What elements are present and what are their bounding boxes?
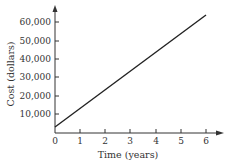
- y-tick-label: 50,000: [20, 36, 52, 46]
- x-tick-label: 1: [77, 136, 83, 146]
- y-tick-label: 60,000: [20, 17, 52, 27]
- origin-label: 0: [52, 136, 58, 146]
- x-tick-label: 6: [203, 136, 209, 146]
- x-tick-labels: 0 1 2 3 4 5 6: [52, 136, 209, 146]
- cost-line: [55, 15, 206, 127]
- x-ticks: [80, 129, 206, 133]
- y-tick-label: 10,000: [20, 109, 52, 119]
- y-axis-arrow: [53, 5, 58, 12]
- y-tick-label: 30,000: [20, 72, 52, 82]
- line-chart: 10,000 20,000 30,000 40,000 50,000 60,00…: [0, 0, 228, 168]
- y-tick-labels: 10,000 20,000 30,000 40,000 50,000 60,00…: [20, 17, 52, 119]
- x-axis-arrow: [216, 131, 224, 136]
- y-ticks: [55, 22, 59, 114]
- y-tick-label: 40,000: [20, 54, 52, 64]
- y-axis-label: Cost (dollars): [5, 41, 16, 106]
- x-tick-label: 3: [127, 136, 133, 146]
- x-tick-label: 5: [178, 136, 184, 146]
- y-tick-label: 20,000: [20, 91, 52, 101]
- x-tick-label: 2: [102, 136, 108, 146]
- x-tick-label: 4: [153, 136, 159, 146]
- x-axis-label: Time (years): [98, 149, 159, 160]
